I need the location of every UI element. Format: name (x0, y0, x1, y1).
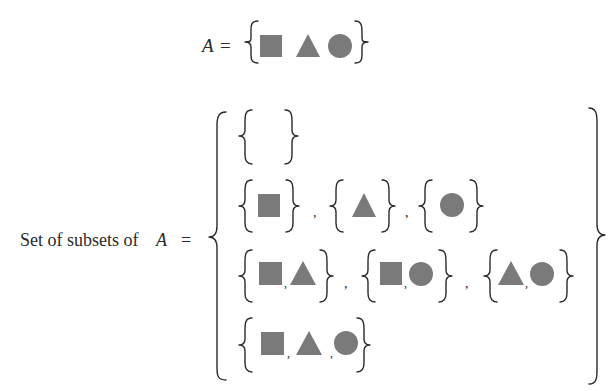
circle-icon (328, 34, 352, 58)
outer-right-brace-icon (589, 108, 605, 384)
square-icon (380, 262, 402, 285)
square-icon (261, 332, 284, 355)
comma-separator: , (284, 276, 287, 290)
left-brace-icon (362, 250, 375, 302)
right-brace-icon (285, 110, 298, 164)
square-icon (259, 262, 282, 285)
comma-separator: , (344, 276, 348, 291)
left-brace-icon (239, 250, 252, 302)
triangle-icon (296, 331, 322, 355)
comma-separator: , (405, 205, 409, 220)
subset-triangle (330, 180, 395, 232)
label-text: Set of subsets of (20, 230, 139, 250)
subset-square-triangle: , (239, 250, 333, 302)
equals-sign: = (220, 35, 231, 56)
square-icon (258, 194, 280, 217)
subset-row-3: , , , , , (239, 250, 573, 302)
subset-row-1 (239, 110, 298, 164)
comma-separator: , (525, 276, 528, 290)
comma-separator: , (287, 346, 290, 360)
left-brace-icon (419, 180, 432, 232)
power-set-label: Set of subsets of A = (20, 230, 191, 250)
subset-row-2: , , (239, 180, 483, 232)
subset-square (239, 180, 299, 232)
circle-icon (334, 331, 358, 355)
empty-set (239, 110, 298, 164)
right-brace-icon (560, 250, 573, 302)
right-brace-icon (355, 21, 368, 63)
triangle-icon (296, 34, 320, 57)
diagram-svg: A = Set of subsets of A = (0, 0, 613, 391)
subset-square-triangle-circle: , , (239, 318, 370, 372)
set-a-definition: A = (200, 21, 368, 63)
left-brace-icon (239, 180, 252, 232)
subset-square-circle: , (362, 250, 452, 302)
outer-left-brace-icon (209, 112, 226, 380)
circle-icon (440, 193, 464, 217)
triangle-icon (498, 261, 524, 285)
subset-triangle-circle: , (484, 250, 573, 302)
triangle-icon (290, 261, 316, 285)
equals-sign: = (181, 230, 191, 250)
square-icon (260, 35, 282, 57)
power-set-diagram: A = Set of subsets of A = (0, 0, 613, 391)
set-a-symbol: A (155, 230, 168, 250)
left-brace-icon (245, 21, 258, 63)
subset-circle (419, 180, 483, 232)
right-brace-icon (470, 180, 483, 232)
set-a-symbol: A (200, 35, 214, 56)
circle-icon (530, 262, 554, 286)
comma-separator: , (465, 276, 469, 291)
right-brace-icon (439, 250, 452, 302)
comma-separator: , (330, 346, 333, 360)
right-brace-icon (320, 250, 333, 302)
left-brace-icon (239, 110, 252, 164)
comma-separator: , (313, 205, 317, 220)
comma-separator: , (404, 276, 407, 290)
circle-icon (409, 262, 433, 286)
right-brace-icon (357, 318, 370, 372)
right-brace-icon (382, 180, 395, 232)
subset-row-4: , , (239, 318, 370, 372)
right-brace-icon (286, 180, 299, 232)
left-brace-icon (484, 250, 497, 302)
left-brace-icon (330, 180, 343, 232)
triangle-icon (352, 193, 376, 217)
left-brace-icon (239, 318, 252, 372)
